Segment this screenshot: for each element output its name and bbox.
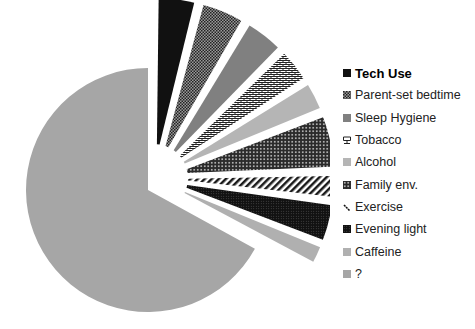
swatch-icon (343, 225, 351, 233)
swatch-icon (343, 270, 351, 278)
legend-item-caffeine: Caffeine (343, 240, 475, 262)
pie-slices (26, 0, 330, 312)
legend-item-tech-use: Tech Use (343, 62, 475, 84)
swatch-icon (343, 69, 351, 77)
swatch-icon (343, 203, 351, 211)
swatch-icon (343, 136, 351, 144)
legend-item-parent-set-bedtime: Parent-set bedtime (343, 84, 475, 106)
legend-item-family-env: Family env. (343, 173, 475, 195)
legend-item-exercise: Exercise (343, 196, 475, 218)
legend-item-unknown: ? (343, 263, 475, 285)
swatch-icon (343, 91, 351, 99)
legend-item-alcohol: Alcohol (343, 151, 475, 173)
swatch-icon (343, 114, 351, 122)
swatch-icon (343, 181, 351, 189)
legend-item-evening-light: Evening light (343, 218, 475, 240)
legend-item-sleep-hygiene: Sleep Hygiene (343, 107, 475, 129)
pie-chart (0, 0, 330, 329)
swatch-icon (343, 158, 351, 166)
legend: Tech Use Parent-set bedtime Sleep Hygien… (343, 62, 475, 285)
swatch-icon (343, 248, 351, 256)
legend-item-tobacco: Tobacco (343, 129, 475, 151)
